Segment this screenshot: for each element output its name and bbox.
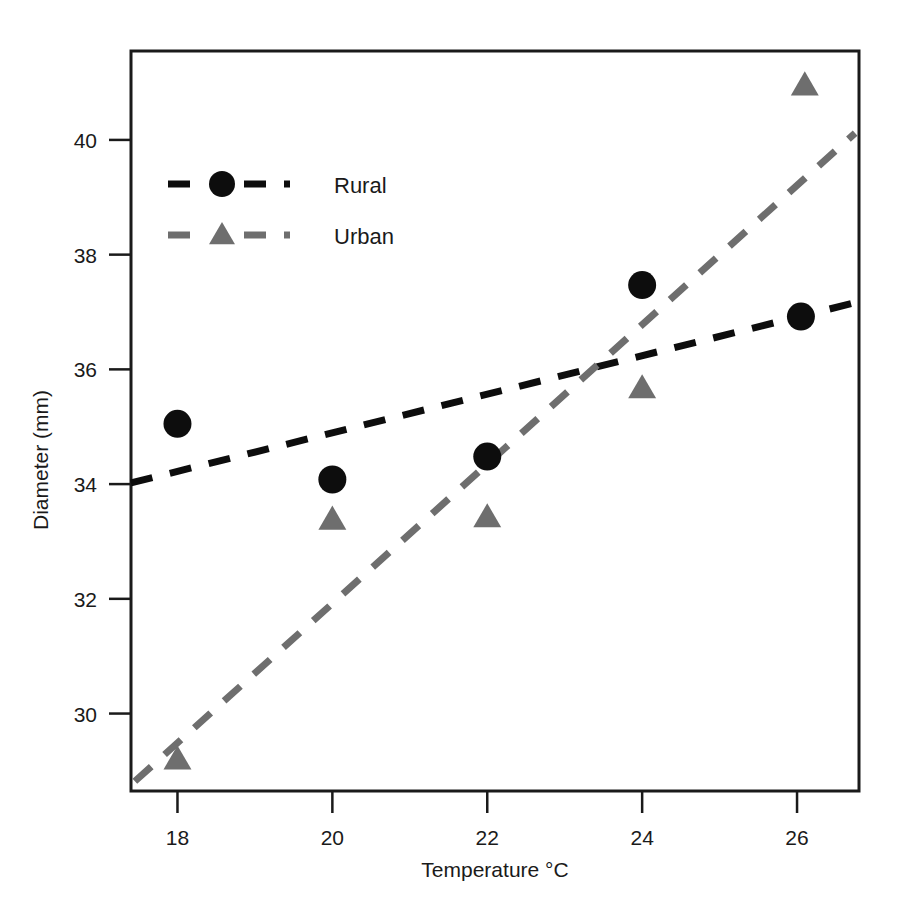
y-axis-ticks <box>109 140 131 714</box>
legend-label-urban: Urban <box>334 224 394 249</box>
plot-frame <box>131 51 859 791</box>
scatter-plot: 1820222426 303234363840 RuralUrban Tempe… <box>0 0 900 914</box>
x-axis-title: Temperature °C <box>421 858 568 881</box>
x-tick-label: 20 <box>321 826 344 849</box>
y-tick-label: 40 <box>74 129 97 152</box>
y-tick-label: 34 <box>74 473 98 496</box>
y-tick-label: 36 <box>74 358 97 381</box>
data-point-rural <box>473 443 501 471</box>
legend-marker-rural <box>209 171 235 197</box>
x-tick-label: 18 <box>166 826 189 849</box>
x-axis-tick-labels: 1820222426 <box>166 826 809 849</box>
x-tick-label: 24 <box>630 826 654 849</box>
x-tick-label: 26 <box>785 826 808 849</box>
y-axis-title: Diameter (mm) <box>29 390 52 530</box>
y-axis-tick-labels: 303234363840 <box>74 129 98 726</box>
data-point-rural <box>163 410 191 438</box>
data-point-rural <box>628 271 656 299</box>
chart-figure: 1820222426 303234363840 RuralUrban Tempe… <box>0 0 900 914</box>
x-tick-label: 22 <box>476 826 499 849</box>
y-tick-label: 30 <box>74 703 97 726</box>
data-point-rural <box>318 466 346 494</box>
y-tick-label: 38 <box>74 244 97 267</box>
y-tick-label: 32 <box>74 588 97 611</box>
legend-label-rural: Rural <box>334 173 387 198</box>
data-point-rural <box>787 303 815 331</box>
x-axis-ticks <box>177 791 797 813</box>
